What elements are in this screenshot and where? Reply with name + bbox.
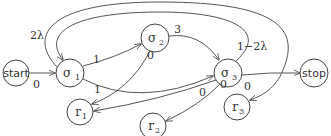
svg-text:3: 3	[239, 107, 244, 116]
node-r3: r 3	[224, 94, 250, 120]
label-s1-s2: 1	[93, 53, 100, 66]
label-s1-r3: 2λ	[30, 29, 44, 42]
edge-s3-r2	[166, 84, 220, 121]
node-sigma2: σ 2	[141, 24, 169, 52]
node-sigma3: σ 3	[214, 59, 242, 87]
label-s3-r2: 0	[220, 78, 227, 91]
label-s3-stop: 0	[244, 80, 251, 93]
node-start: start	[3, 60, 29, 86]
edge-s3-r1	[94, 80, 216, 111]
svg-text:2: 2	[155, 126, 160, 135]
node-stop: stop	[300, 59, 328, 87]
node-sigma1: σ 1	[56, 59, 84, 87]
svg-text:1: 1	[75, 73, 80, 82]
diagram-svg: start σ 1 σ 2 σ 3 stop r 1 r 2 r 3 0 1 1…	[0, 0, 331, 136]
svg-text:r: r	[75, 105, 81, 119]
edge-s2-s3	[169, 36, 219, 61]
svg-text:1: 1	[82, 112, 87, 121]
svg-text:3: 3	[232, 73, 237, 82]
svg-text:r: r	[148, 119, 154, 133]
svg-text:σ: σ	[148, 31, 156, 45]
svg-text:stop: stop	[302, 67, 326, 80]
label-s3-s1: 1−2λ	[237, 40, 267, 53]
node-r2: r 2	[140, 113, 166, 136]
edge-s3-stop	[242, 73, 300, 75]
edge-s1-s3	[83, 76, 213, 93]
svg-text:r: r	[232, 100, 238, 114]
node-r1: r 1	[67, 99, 93, 125]
label-s1-s3: 1	[94, 83, 101, 96]
label-s2-s3: 3	[174, 23, 181, 36]
label-s2-r1: 0	[147, 49, 154, 62]
edge-s1-s2	[83, 44, 141, 66]
svg-text:2: 2	[159, 38, 164, 47]
svg-text:σ: σ	[63, 66, 71, 80]
state-diagram: start σ 1 σ 2 σ 3 stop r 1 r 2 r 3 0 1 1…	[0, 0, 331, 136]
label-start-s1: 0	[33, 78, 40, 91]
edge-s2-r1	[92, 51, 150, 104]
label-s3-r1: 0	[199, 86, 206, 99]
svg-text:start: start	[3, 67, 29, 80]
